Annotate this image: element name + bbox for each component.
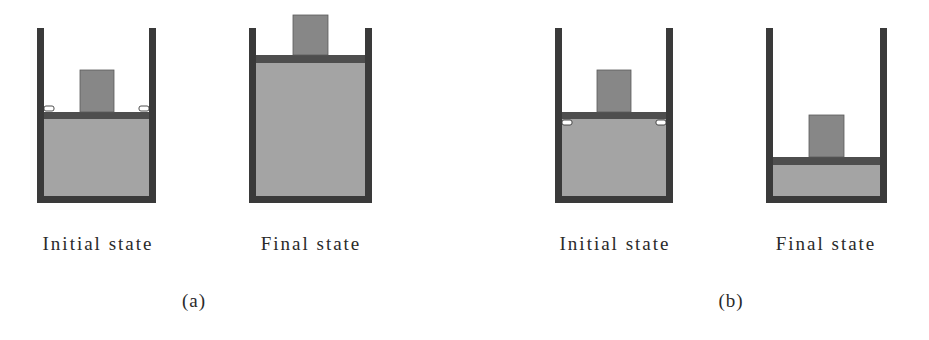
cylinder-bottom: [249, 196, 372, 203]
weight-block: [80, 70, 114, 112]
weight-block: [809, 115, 844, 157]
cylinder-bottom: [37, 196, 156, 203]
panel-a: [37, 15, 372, 203]
piston-stop-right: [656, 120, 666, 125]
gas-region: [44, 119, 149, 196]
cylinder-bottom: [766, 196, 887, 203]
cylinder-left-wall: [249, 28, 256, 203]
initial-state-cylinder: [37, 28, 156, 203]
piston: [562, 112, 666, 119]
panel-a-initial-caption: Initial state: [43, 233, 154, 255]
cylinder-left-wall: [766, 28, 773, 203]
piston-cylinder-diagram: [0, 0, 929, 340]
cylinder-bottom: [555, 196, 673, 203]
cylinder-right-wall: [880, 28, 887, 203]
final-state-cylinder: [766, 28, 887, 203]
initial-state-cylinder: [555, 28, 673, 203]
weight-block: [597, 70, 631, 112]
panel-b-final-caption: Final state: [776, 233, 877, 255]
cylinder-right-wall: [149, 28, 156, 203]
final-state-cylinder: [249, 15, 372, 203]
piston-stop-left: [562, 120, 572, 125]
panel-b-label: (b): [718, 290, 743, 312]
piston: [44, 112, 149, 119]
piston-stop-left: [44, 106, 54, 111]
panel-b-initial-caption: Initial state: [560, 233, 671, 255]
weight-block: [293, 15, 328, 55]
panel-a-label: (a): [182, 290, 206, 312]
piston: [773, 157, 880, 165]
gas-region: [256, 63, 365, 196]
gas-region: [562, 119, 666, 196]
cylinder-right-wall: [666, 28, 673, 203]
cylinder-left-wall: [555, 28, 562, 203]
gas-region: [773, 165, 880, 196]
piston-stop-right: [139, 106, 149, 111]
cylinder-right-wall: [365, 28, 372, 203]
panel-b: [555, 28, 887, 203]
panel-a-final-caption: Final state: [261, 233, 362, 255]
piston: [256, 55, 365, 63]
cylinder-left-wall: [37, 28, 44, 203]
